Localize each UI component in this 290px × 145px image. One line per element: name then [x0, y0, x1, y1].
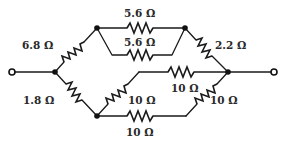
- node-d-dot: [225, 69, 231, 75]
- label-6-8-ohm: 6.8 Ω: [22, 39, 53, 51]
- resistor-5-6-ohm-lower: 5.6 Ω: [97, 28, 185, 60]
- label-10-ohm-bottom: 10 Ω: [126, 126, 154, 138]
- label-1-8-ohm: 1.8 Ω: [23, 94, 54, 106]
- label-10-ohm-diagonal-left: 10 Ω: [128, 94, 156, 106]
- output-terminal: [271, 69, 277, 75]
- resistor-network-diagram: 6.8 Ω 5.6 Ω 5.6 Ω 2.2 Ω 1.8 Ω 10 Ω: [0, 0, 290, 145]
- label-2-2-ohm: 2.2 Ω: [215, 39, 246, 51]
- node-e-dot: [94, 113, 100, 119]
- node-b-dot: [94, 25, 100, 31]
- resistor-10-ohm-diagonal-left: 10 Ω: [97, 72, 156, 116]
- label-5-6-ohm-top: 5.6 Ω: [124, 7, 155, 19]
- label-5-6-ohm-lower: 5.6 Ω: [124, 36, 155, 48]
- resistor-6-8-ohm: 6.8 Ω: [22, 28, 97, 72]
- label-10-ohm-diagonal-right: 10 Ω: [210, 94, 238, 106]
- resistor-1-8-ohm: 1.8 Ω: [23, 72, 97, 116]
- resistor-10-ohm-bottom: 10 Ω: [97, 111, 186, 138]
- resistor-10-ohm-diagonal-right: 10 Ω: [186, 72, 238, 116]
- node-a-dot: [52, 69, 58, 75]
- node-c-dot: [182, 25, 188, 31]
- resistor-2-2-ohm: 2.2 Ω: [185, 28, 246, 72]
- resistor-5-6-ohm-top: 5.6 Ω: [97, 7, 185, 33]
- label-10-ohm-horizontal: 10 Ω: [171, 82, 199, 94]
- input-terminal: [9, 69, 15, 75]
